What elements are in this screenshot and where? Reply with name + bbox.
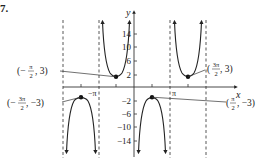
y-tick-6: 6 — [127, 56, 132, 66]
svg-text:, −3): , −3) — [237, 98, 255, 109]
svg-text:π: π — [29, 63, 33, 70]
x-tick-pi: π — [172, 89, 176, 98]
svg-text:(−: (− — [7, 98, 16, 109]
y-tick-14: 14 — [122, 29, 132, 39]
svg-text:π: π — [231, 95, 235, 102]
svg-text:(−: (− — [17, 66, 26, 77]
asymptotes — [63, 20, 206, 158]
svg-text:, 3): , 3) — [35, 66, 48, 77]
svg-text:2: 2 — [29, 72, 32, 79]
y-tick-neg10: −10 — [117, 122, 132, 132]
svg-text:(: ( — [207, 64, 210, 75]
svg-text:(: ( — [226, 98, 229, 109]
x-tick-neg-pi: −π — [88, 89, 97, 98]
branch-down-right — [139, 98, 166, 152]
y-tick-neg6: −6 — [121, 109, 131, 119]
svg-text:, 3): , 3) — [220, 64, 233, 75]
svg-text:2: 2 — [20, 104, 23, 111]
branch-down-left — [67, 98, 96, 152]
svg-text:3π: 3π — [19, 95, 26, 102]
y-tick-10: 10 — [122, 42, 132, 52]
svg-text:, −3): , −3) — [26, 98, 44, 109]
leader-lines — [60, 70, 226, 102]
y-tick-neg14: −14 — [117, 136, 132, 146]
label-pi-over-2: ( π 2 , −3) — [226, 95, 255, 111]
graph-figure: y x 14 10 6 2 −2 −6 −10 −14 −π π (− π — [0, 0, 268, 162]
branch-up-right — [175, 22, 202, 76]
y-tick-2: 2 — [127, 70, 132, 80]
svg-text:3π: 3π — [213, 61, 220, 68]
svg-text:2: 2 — [231, 104, 234, 111]
label-neg-3pi-over-2: (− 3π 2 , −3) — [7, 95, 44, 111]
svg-text:2: 2 — [214, 70, 217, 77]
y-axis-label: y — [125, 7, 131, 18]
label-neg-pi-over-2: (− π 2 , 3) — [17, 63, 48, 79]
label-3pi-over-2: ( 3π 2 , 3) — [207, 61, 233, 77]
y-tick-neg2: −2 — [121, 96, 131, 106]
